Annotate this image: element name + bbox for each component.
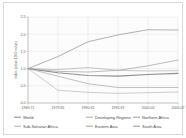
legend-item[interactable]: Northern Africa [133,115,169,120]
x-tick-label: 1969-71 [21,106,34,110]
legend-item[interactable]: World [14,115,33,120]
legend-item[interactable]: Developing Regions [86,115,131,120]
plot-container: 0.00.51.01.52.02.51969-711979-811990-921… [0,0,186,138]
legend-label: Eastern Asia [95,124,118,129]
y-tick-label: 1.5 [20,50,25,54]
chart-figure: 0.00.51.01.52.02.51969-711979-811990-921… [0,0,186,138]
legend-item[interactable]: Eastern Asia [86,124,118,129]
y-tick-label: 2.5 [20,15,25,19]
y-axis-title: Index (value 1969 value) [14,41,18,78]
legend-item[interactable]: Sub-Saharan Africa [14,124,58,129]
x-tick-label: 1995-97 [111,106,124,110]
y-tick-label: 2.0 [20,33,25,37]
x-tick-label: 1979-81 [51,106,64,110]
line-chart: 0.00.51.01.52.02.51969-711979-811990-921… [0,0,186,138]
legend-label: Sub-Saharan Africa [23,124,58,129]
y-tick-label: 0.5 [20,84,25,88]
x-tick-label: 2000-02 [141,106,154,110]
legend-label: World [23,115,33,120]
legend-item[interactable]: South Asia [133,124,162,129]
legend-label: South Asia [142,124,162,129]
legend-label: Northern Africa [142,115,169,120]
y-tick-label: 1.0 [20,67,25,71]
x-tick-label: 2005-07 [171,106,184,110]
y-tick-label: 0.0 [20,101,25,105]
x-tick-label: 1990-92 [81,106,94,110]
legend-label: Developing Regions [95,115,131,120]
